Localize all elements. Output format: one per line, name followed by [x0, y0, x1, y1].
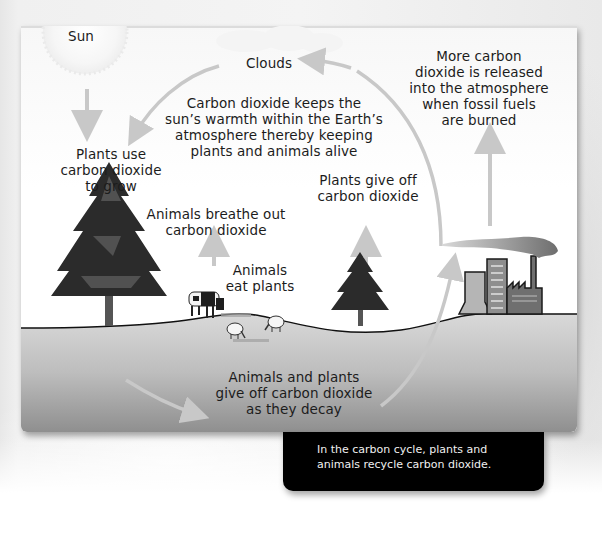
cow-icon — [189, 292, 224, 318]
caption-text: In the carbon cycle, plants and animals … — [317, 442, 537, 472]
label-sun: Sun — [51, 28, 111, 44]
factory-icon — [459, 256, 542, 314]
carbon-cycle-diagram: Sun Clouds Carbon dioxide keeps the sun’… — [21, 26, 577, 432]
label-decay: Animals and plants give off carbon dioxi… — [204, 369, 384, 417]
label-greenhouse: Carbon dioxide keeps the sun’s warmth wi… — [144, 95, 404, 159]
clouds-icon — [216, 26, 343, 53]
label-animals-eat: Animals eat plants — [220, 262, 300, 294]
label-fossil-fuels: More carbon dioxide is released into the… — [409, 48, 549, 128]
caption-box: In the carbon cycle, plants and animals … — [283, 432, 544, 491]
smoke-plume-icon — [443, 237, 558, 258]
label-plants-use: Plants use carbon dioxide to grow — [56, 146, 166, 194]
label-plants-give-off: Plants give off carbon dioxide — [308, 172, 428, 204]
label-clouds: Clouds — [234, 55, 304, 71]
label-animals-breathe: Animals breathe out carbon dioxide — [141, 206, 291, 238]
small-pine-tree-icon — [331, 252, 389, 326]
